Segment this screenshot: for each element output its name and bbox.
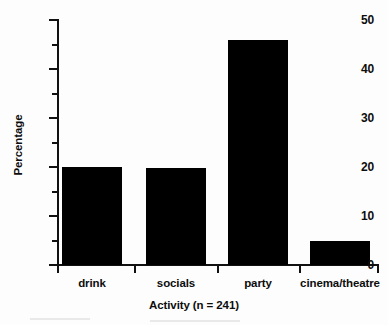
x-tick-label: cinema/theatre (300, 277, 380, 289)
bar (146, 168, 206, 265)
y-axis-title: Percentage (10, 100, 26, 190)
y-tick-label: 0 (368, 259, 374, 271)
bar (62, 167, 122, 265)
bar (228, 40, 288, 265)
y-tick-label: 40 (361, 63, 374, 75)
y-tick-label: 30 (361, 112, 374, 124)
bar-chart-figure: Percentage Activity (n = 241) 5040302010… (0, 0, 388, 325)
x-axis-title: Activity (n = 241) (0, 299, 388, 311)
x-tick-label: socials (157, 277, 195, 289)
y-tick-label: 50 (361, 14, 374, 26)
x-tick-label: party (244, 277, 272, 289)
y-tick-label: 20 (361, 161, 374, 173)
x-tick-label: drink (78, 277, 106, 289)
y-axis-title-text: Percentage (12, 114, 24, 175)
bar (310, 241, 370, 266)
y-tick-label: 10 (361, 210, 374, 222)
